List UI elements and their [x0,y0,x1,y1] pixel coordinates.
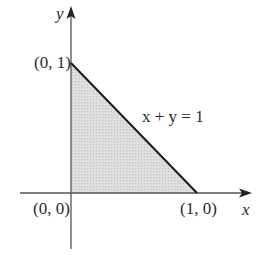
point-label-1-0: (1, 0) [180,199,217,218]
y-axis-label: y [54,4,64,23]
point-label-0-1: (0, 1) [34,53,71,72]
region-diagram: y x (0, 1) (0, 0) (1, 0) x + y = 1 [0,0,265,255]
line-equation: x + y = 1 [142,107,204,126]
x-axis-label: x [241,200,250,219]
point-label-0-0: (0, 0) [33,199,70,218]
